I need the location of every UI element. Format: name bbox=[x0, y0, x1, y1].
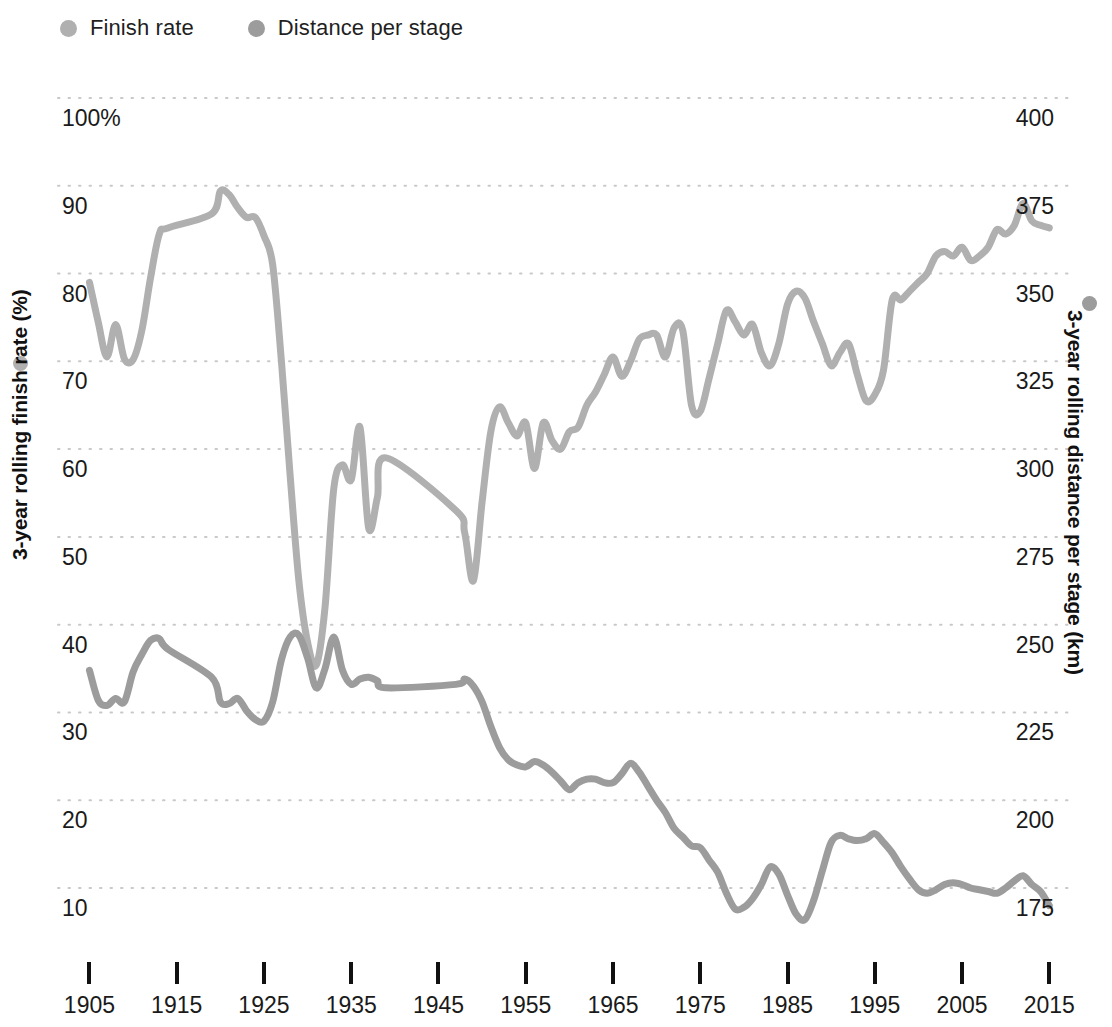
y-axis-left-tick-label: 90 bbox=[62, 193, 88, 220]
x-axis-tick-label: 2005 bbox=[936, 992, 987, 1019]
y-axis-left-tick-label: 50 bbox=[62, 544, 88, 571]
y-axis-left-tick-label: 30 bbox=[62, 719, 88, 746]
x-axis-tick-mark bbox=[175, 962, 179, 984]
right-axis-title-dot-icon bbox=[1082, 296, 1097, 311]
x-axis-tick-label: 1935 bbox=[326, 992, 377, 1019]
x-axis-tick-mark bbox=[611, 962, 615, 984]
x-axis-tick-label: 1925 bbox=[238, 992, 289, 1019]
y-axis-right-tick-label: 400 bbox=[1016, 105, 1054, 132]
chart-series-lines bbox=[0, 0, 1112, 1027]
x-axis-tick-mark bbox=[698, 962, 702, 984]
chart-plot-area: 100%908070605040302010400375350325300275… bbox=[0, 0, 1112, 1027]
y-axis-left-tick-label: 70 bbox=[62, 368, 88, 395]
x-axis-tick-mark bbox=[524, 962, 528, 984]
y-axis-right-tick-label: 350 bbox=[1016, 281, 1054, 308]
x-axis-tick-label: 1945 bbox=[413, 992, 464, 1019]
y-axis-right-tick-label: 250 bbox=[1016, 632, 1054, 659]
y-axis-left-tick-label: 20 bbox=[62, 807, 88, 834]
right-axis-title: 3-year rolling distance per stage (km) bbox=[1063, 310, 1087, 675]
x-axis-tick-label: 1975 bbox=[675, 992, 726, 1019]
x-axis-tick-mark bbox=[873, 962, 877, 984]
y-axis-right-tick-label: 325 bbox=[1016, 368, 1054, 395]
y-axis-right-tick-label: 275 bbox=[1016, 544, 1054, 571]
x-axis-tick-mark bbox=[1047, 962, 1051, 984]
y-axis-right-tick-label: 200 bbox=[1016, 807, 1054, 834]
series-line-distance-per-stage bbox=[89, 633, 1049, 920]
y-axis-right-tick-label: 175 bbox=[1016, 895, 1054, 922]
x-axis-tick-label: 1965 bbox=[587, 992, 638, 1019]
y-axis-left-tick-label: 10 bbox=[62, 895, 88, 922]
y-axis-right-tick-label: 225 bbox=[1016, 719, 1054, 746]
series-line-finish-rate bbox=[89, 190, 1049, 667]
x-axis-tick-mark bbox=[436, 962, 440, 984]
x-axis-tick-label: 1915 bbox=[151, 992, 202, 1019]
x-axis-tick-mark bbox=[87, 962, 91, 984]
x-axis-tick-label: 2015 bbox=[1024, 992, 1075, 1019]
left-axis-title: 3-year rolling finish rate (%) bbox=[8, 289, 32, 560]
x-axis-tick-mark bbox=[262, 962, 266, 984]
x-axis-tick-label: 1985 bbox=[762, 992, 813, 1019]
x-axis-tick-mark bbox=[786, 962, 790, 984]
y-axis-right-tick-label: 375 bbox=[1016, 193, 1054, 220]
y-axis-left-tick-label: 40 bbox=[62, 632, 88, 659]
y-axis-left-tick-label: 60 bbox=[62, 456, 88, 483]
x-axis-tick-mark bbox=[960, 962, 964, 984]
y-axis-right-tick-label: 300 bbox=[1016, 456, 1054, 483]
x-axis-tick-label: 1955 bbox=[500, 992, 551, 1019]
y-axis-left-tick-label: 80 bbox=[62, 281, 88, 308]
x-axis-tick-label: 1905 bbox=[64, 992, 115, 1019]
x-axis-tick-mark bbox=[349, 962, 353, 984]
x-axis-tick-label: 1995 bbox=[849, 992, 900, 1019]
y-axis-left-tick-label: 100% bbox=[62, 105, 121, 132]
